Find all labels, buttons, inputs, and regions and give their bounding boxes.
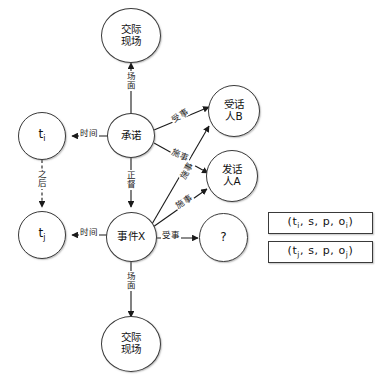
node-addressee-b-line2: 人B [225, 111, 243, 123]
node-ti-label: ti [39, 128, 46, 144]
node-tj-label: tj [39, 227, 46, 243]
node-tj[interactable]: tj [18, 211, 66, 259]
node-speaker-a-line2: 人A [223, 176, 241, 188]
node-ti[interactable]: ti [18, 112, 66, 160]
edge-label-time-upper: 时间 [79, 129, 99, 138]
formula-box-1: (ti, s, p, oi) [268, 212, 373, 234]
node-event-x[interactable]: 事件X [106, 212, 157, 262]
node-unknown[interactable]: ? [199, 213, 248, 262]
node-scene-top-line1: 交际 [121, 24, 142, 36]
node-scene-bottom-line2: 现场 [121, 344, 142, 356]
diagram-canvas: 交际 现场 ti 承诺 受话 人B 发话 人A tj 事件X ? 交际 现场 场… [0, 0, 381, 378]
edge-label-modality: 正督 [125, 170, 134, 190]
node-scene-bottom[interactable]: 交际 现场 [101, 316, 161, 372]
edge-label-scene-bottom: 场面 [125, 271, 134, 291]
node-speaker-a[interactable]: 发话 人A [206, 150, 258, 202]
formula-1-text: (ti, s, p, oi) [288, 215, 354, 230]
node-scene-top-line2: 现场 [121, 36, 142, 48]
edge-label-scene-top: 场面 [125, 71, 134, 91]
edge-lines-layer [0, 0, 381, 378]
formula-box-2: (tj, s, p, oj) [268, 241, 373, 263]
edge-label-after: 之后 [36, 169, 45, 189]
node-promise[interactable]: 承诺 [107, 113, 155, 158]
node-scene-top[interactable]: 交际 现场 [101, 8, 161, 63]
node-event-x-label: 事件X [117, 231, 145, 243]
edge-label-patient-event-to-unknown: 受事 [161, 231, 181, 240]
node-promise-label: 承诺 [121, 130, 142, 142]
edge-label-time-lower: 时间 [79, 228, 99, 237]
node-addressee-b[interactable]: 受话 人B [208, 85, 260, 137]
node-unknown-label: ? [220, 231, 226, 244]
formula-2-text: (tj, s, p, oj) [288, 244, 354, 259]
